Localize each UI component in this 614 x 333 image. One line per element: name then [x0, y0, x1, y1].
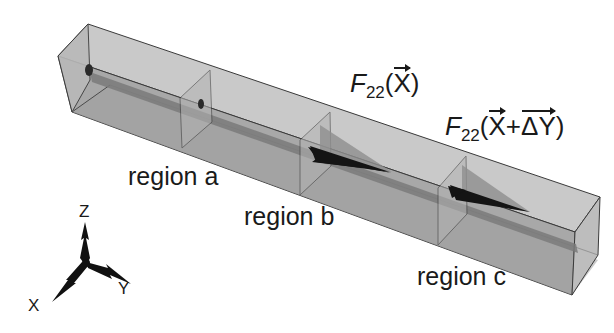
- force-label-f22-x: F22(X): [350, 70, 420, 101]
- region-b-label: region b: [244, 204, 334, 229]
- marker-dot-left-end: [85, 64, 93, 76]
- y-axis-label: Y: [118, 280, 129, 297]
- force-subscript: 22: [461, 126, 480, 145]
- force-fn: F: [350, 68, 366, 98]
- paren-close: ): [556, 111, 565, 141]
- plus-sign: +: [506, 111, 521, 141]
- vector-delta-y: ΔY: [521, 113, 556, 139]
- beam: [58, 24, 600, 295]
- region-a-label: region a: [128, 164, 218, 189]
- region-c-label: region c: [417, 264, 506, 289]
- paren-close: ): [411, 68, 420, 98]
- force-subscript: 22: [366, 83, 385, 102]
- x-axis-label: X: [28, 297, 39, 314]
- force-label-f22-x-plus-dy: F22(X+ΔY): [445, 113, 564, 144]
- z-axis-label: Z: [79, 203, 89, 220]
- paren-open: (: [385, 68, 394, 98]
- z-axis-arrow-icon: [80, 222, 90, 262]
- vector-x: X: [393, 70, 410, 96]
- marker-dot-wall-1: [198, 99, 204, 109]
- x-axis-arrow-icon: [52, 262, 88, 302]
- vector-x: X: [488, 113, 505, 139]
- diagram-canvas: [0, 0, 614, 333]
- paren-open: (: [480, 111, 489, 141]
- force-fn: F: [445, 111, 461, 141]
